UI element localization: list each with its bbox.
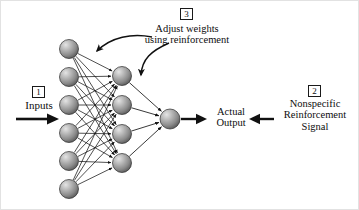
nonspecific-line-3: Signal	[302, 121, 329, 132]
inputs-label: Inputs	[9, 100, 69, 112]
hidden-node-1	[113, 67, 132, 86]
edge	[132, 108, 159, 116]
input-signal-arrow	[16, 114, 59, 125]
output-nodes	[160, 109, 180, 129]
adjust-weights-line-1: Adjust weights	[155, 23, 218, 34]
adjust-weights-line-2: using reinforcement	[145, 34, 229, 45]
marker-one: 1	[32, 86, 45, 98]
edge	[78, 168, 112, 185]
marker-three: 3	[180, 8, 193, 20]
adjust-weights-arrow-right	[141, 43, 169, 75]
hidden-node-4	[113, 154, 132, 173]
hidden-nodes	[113, 67, 132, 173]
hidden-node-2	[113, 96, 132, 115]
output-node-1	[160, 109, 180, 129]
actual-output-line-2: Output	[216, 117, 245, 128]
input-node-4	[60, 124, 79, 143]
edge	[79, 76, 111, 77]
input-node-2	[60, 68, 79, 87]
nonspecific-line-2: Reinforcement	[284, 109, 346, 120]
nonspecific-reinforcement-signal-label: Nonspecific Reinforcement Signal	[275, 98, 355, 132]
actual-output-line-1: Actual	[217, 106, 245, 117]
figure-canvas: 1 Inputs 3 Adjust weights using reinforc…	[0, 0, 359, 210]
edge	[132, 122, 159, 131]
input-node-1	[60, 40, 79, 59]
input-node-5	[60, 152, 79, 171]
input-node-6	[60, 180, 79, 199]
edge	[74, 114, 116, 180]
edge	[129, 83, 161, 112]
nonspecific-line-1: Nonspecific	[290, 98, 341, 109]
actual-output-arrow	[181, 114, 207, 124]
edges-hidden-to-output	[129, 83, 161, 157]
actual-output-label: Actual Output	[207, 106, 255, 129]
edges-input-to-hidden	[73, 54, 117, 185]
marker-two: 2	[308, 85, 321, 97]
adjust-weights-label: Adjust weights using reinforcement	[132, 23, 242, 46]
edge	[129, 127, 161, 156]
edge	[78, 54, 112, 71]
hidden-node-3	[113, 125, 132, 144]
